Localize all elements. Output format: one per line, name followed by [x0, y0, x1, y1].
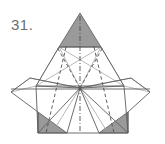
- radial-fold-right-inner: [80, 88, 99, 133]
- hidden-radial-right: [80, 47, 103, 88]
- figure-number-label: 31.: [11, 17, 33, 32]
- hidden-fold-right: [94, 47, 114, 133]
- lower-body-left-edge: [36, 86, 38, 133]
- bottom-left-shaded-triangle: [38, 112, 67, 133]
- right-wing-outline: [128, 78, 150, 133]
- shaded-faces-group: [38, 13, 128, 133]
- hidden-radial-left: [57, 47, 80, 88]
- figure-panel: 31.: [0, 0, 165, 144]
- hidden-fold-left: [46, 47, 66, 133]
